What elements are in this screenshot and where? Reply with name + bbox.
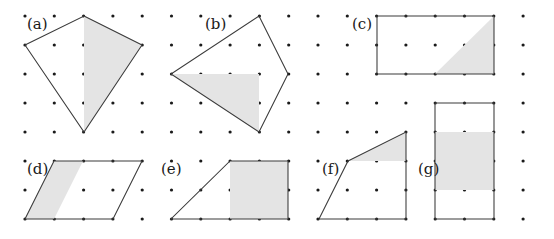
grid-dot (316, 43, 319, 46)
grid-dot (287, 130, 290, 133)
grid-dot (23, 188, 26, 191)
grid-dot (375, 130, 378, 133)
grid-dot (287, 14, 290, 17)
grid-dot (375, 101, 378, 104)
panel-label-d: (d) (27, 160, 48, 178)
grid-dot (111, 188, 114, 191)
panel-label-g: (g) (418, 160, 439, 178)
grid-dot (53, 14, 56, 17)
shaded-region-e (230, 161, 288, 219)
grid-dot (111, 14, 114, 17)
panel-label-b: (b) (205, 15, 226, 33)
panel-label-e: (e) (161, 160, 182, 178)
grid-dot (522, 101, 525, 104)
grid-dot (229, 43, 232, 46)
grid-dot (316, 14, 319, 17)
grid-dot (199, 101, 202, 104)
grid-dot (199, 159, 202, 162)
grid-dot (404, 101, 407, 104)
grid-dot (170, 130, 173, 133)
grid-dot (522, 43, 525, 46)
grid-dot (316, 130, 319, 133)
grid-dot (82, 188, 85, 191)
figure-root: (a)(b)(c)(d)(e)(f)(g) (0, 0, 554, 239)
grid-dot (522, 130, 525, 133)
grid-dot (141, 72, 144, 75)
grid-dot (287, 43, 290, 46)
grid-dot (229, 130, 232, 133)
grid-dot (141, 101, 144, 104)
panel-label-c: (c) (352, 15, 372, 33)
grid-dot (346, 101, 349, 104)
grid-dot (316, 101, 319, 104)
grid-dot (522, 188, 525, 191)
grid-dot (23, 72, 26, 75)
grid-dot (199, 14, 202, 17)
grid-dot (23, 101, 26, 104)
grid-dot (53, 130, 56, 133)
grid-dot (316, 72, 319, 75)
grid-dot (522, 217, 525, 220)
grid-dot (170, 101, 173, 104)
grid-dot (170, 188, 173, 191)
grid-dot (53, 72, 56, 75)
grid-dot (404, 43, 407, 46)
panel-label-f: (f) (322, 160, 339, 178)
grid-dot (346, 72, 349, 75)
grid-dot (53, 101, 56, 104)
grid-dot (522, 72, 525, 75)
grid-dot (141, 14, 144, 17)
grid-dot (258, 43, 261, 46)
grid-dot (316, 159, 319, 162)
grid-dot (346, 14, 349, 17)
grid-dot (346, 188, 349, 191)
shaded-region-g (435, 132, 494, 190)
grid-dot (53, 43, 56, 46)
grid-dot (170, 14, 173, 17)
grid-dot (199, 130, 202, 133)
grid-dot (522, 159, 525, 162)
grid-dot (375, 188, 378, 191)
grid-dot (346, 130, 349, 133)
dot-grid-figure-canvas: (a)(b)(c)(d)(e)(f)(g) (0, 0, 554, 239)
grid-dot (316, 188, 319, 191)
grid-dot (434, 43, 437, 46)
grid-dot (111, 101, 114, 104)
grid-dot (170, 43, 173, 46)
grid-dot (346, 43, 349, 46)
grid-dot (111, 130, 114, 133)
grid-dot (229, 14, 232, 17)
panel-label-a: (a) (27, 15, 48, 33)
grid-dot (141, 217, 144, 220)
grid-dot (199, 43, 202, 46)
grid-dot (287, 101, 290, 104)
grid-dot (141, 188, 144, 191)
grid-dot (141, 130, 144, 133)
grid-dot (522, 14, 525, 17)
grid-dot (23, 130, 26, 133)
